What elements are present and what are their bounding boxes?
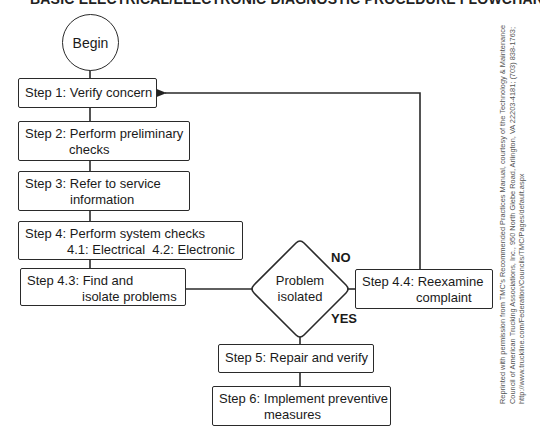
step-4-4-line1: Step 4.4: Reexamine <box>362 274 486 290</box>
credit-line1: Reprinted with permission from TMC's Rec… <box>498 25 508 404</box>
step-1-box: Step 1: Verify concern <box>18 78 157 108</box>
step-2-box: Step 2: Perform preliminary checks <box>18 121 190 161</box>
step-4-4-box: Step 4.4: Reexamine complaint <box>355 269 493 309</box>
credit-line2: Council of American Trucking Association… <box>508 25 518 404</box>
step-4-3-line2: isolate problems <box>27 289 179 305</box>
no-branch-label: NO <box>331 250 351 265</box>
step-4-line1: Step 4: Perform system checks <box>25 226 236 242</box>
step-6-box: Step 6: Implement preventive measures <box>212 386 391 426</box>
begin-label: Begin <box>73 35 109 51</box>
credit-line3: http://www.truckline.com/Federation/Coun… <box>517 25 527 404</box>
step-6-line1: Step 6: Implement preventive <box>219 391 384 407</box>
step-1-label: Step 1: Verify concern <box>25 85 152 100</box>
step-5-box: Step 5: Repair and verify <box>218 344 374 373</box>
decision-line1: Problem <box>260 273 340 289</box>
yes-branch-label: YES <box>331 311 357 326</box>
step-4-3-box: Step 4.3: Find and isolate problems <box>20 268 186 306</box>
decision-label: Problem isolated <box>260 273 340 305</box>
decision-line2: isolated <box>260 289 340 305</box>
step-4-3-line1: Step 4.3: Find and <box>27 273 179 289</box>
step-4-box: Step 4: Perform system checks 4.1: Elect… <box>18 221 243 260</box>
step-6-line2: measures <box>219 407 384 423</box>
step-3-box: Step 3: Refer to service information <box>18 171 190 211</box>
begin-node: Begin <box>62 14 119 71</box>
step-3-line1: Step 3: Refer to service <box>25 176 183 192</box>
step-2-line2: checks <box>25 142 183 158</box>
step-3-line2: information <box>25 192 183 208</box>
step-5-label: Step 5: Repair and verify <box>225 350 368 365</box>
step-4-4-line2: complaint <box>362 290 486 306</box>
permission-credit: Reprinted with permission from TMC's Rec… <box>498 25 527 404</box>
step-4-line2: 4.1: Electrical 4.2: Electronic <box>25 242 236 258</box>
step-2-line1: Step 2: Perform preliminary <box>25 126 183 142</box>
